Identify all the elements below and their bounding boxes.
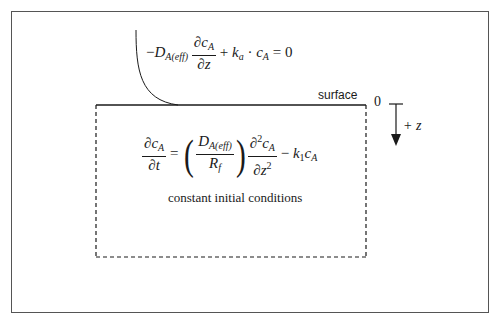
boundary-condition-equation: −DA(eff) ∂cA ∂z + ka · cA = 0: [146, 34, 292, 73]
governing-equation: ∂cA ∂t = ( DA(eff) Rf ) ∂2cA ∂z2 − k1cA: [142, 130, 317, 179]
bc-diffusivity: D: [154, 44, 165, 60]
ge-lhs-den: ∂t: [142, 157, 166, 174]
ge-R: R: [209, 155, 218, 171]
bc-c2-sub: A: [263, 51, 269, 62]
ge-equals: =: [170, 145, 178, 161]
ge-coefficient: DA(eff) Rf: [196, 133, 234, 176]
ge-k: k: [293, 145, 300, 161]
bc-c: c: [201, 34, 208, 50]
ge-lhs-num-sub: A: [158, 142, 164, 153]
ge-d2-den: ∂z: [253, 162, 266, 178]
z-axis-arrow-icon: [391, 134, 401, 146]
ge-second-derivative: ∂2cA ∂z2: [248, 130, 277, 179]
bc-k-sub: a: [239, 51, 244, 62]
surface-label: surface: [318, 88, 357, 102]
bc-den-partial: ∂: [197, 56, 204, 72]
ge-minus: −: [281, 145, 289, 161]
ge-c-sub: A: [311, 152, 317, 163]
bc-plus: +: [220, 44, 228, 60]
bc-derivative: ∂cA ∂z: [192, 34, 216, 73]
z-axis-label: + z: [403, 118, 421, 134]
origin-label: 0: [374, 94, 381, 110]
bc-equals-zero: = 0: [273, 44, 293, 60]
ge-R-sub: f: [218, 162, 221, 173]
bc-k: k: [232, 44, 239, 60]
ge-lhs-num: ∂c: [144, 135, 158, 151]
ge-d2-c-sub: A: [269, 142, 275, 153]
bc-c-sub: A: [208, 41, 214, 52]
bc-diffusivity-sub: A(eff): [165, 51, 188, 62]
bc-c2: c: [256, 44, 263, 60]
initial-conditions-label: constant initial conditions: [168, 190, 302, 206]
ge-lhs: ∂cA ∂t: [142, 135, 166, 174]
bc-dot: ·: [247, 44, 252, 60]
ge-D-sub: A(eff): [209, 140, 232, 151]
ge-D: D: [198, 133, 209, 149]
ge-right-paren: ): [236, 135, 246, 175]
bc-den-z: z: [205, 56, 211, 72]
ge-d2-den-sup: 2: [266, 160, 271, 171]
ge-d2-c: c: [262, 135, 269, 151]
ge-left-paren: (: [184, 135, 194, 175]
